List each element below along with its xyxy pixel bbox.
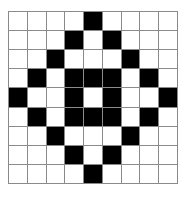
grid-cell-r7-c3 — [65, 146, 84, 165]
grid-cell-r2-c3 — [65, 50, 84, 69]
grid-cell-r4-c8 — [159, 88, 178, 107]
grid-cell-r0-c3 — [65, 12, 84, 31]
grid-cell-r5-c5 — [103, 108, 122, 127]
grid-cell-r3-c5 — [103, 69, 122, 88]
grid-cell-r6-c6 — [122, 127, 141, 146]
grid-cell-r2-c8 — [159, 50, 178, 69]
grid-cell-r4-c2 — [47, 88, 66, 107]
grid-cell-r2-c1 — [28, 50, 47, 69]
grid-cell-r7-c5 — [103, 146, 122, 165]
grid-cell-r1-c3 — [65, 31, 84, 50]
grid-cell-r0-c6 — [122, 12, 141, 31]
grid-cell-r1-c2 — [47, 31, 66, 50]
grid-cell-r4-c7 — [140, 88, 159, 107]
grid-cell-r1-c4 — [84, 31, 103, 50]
grid-cell-r0-c2 — [47, 12, 66, 31]
grid-cell-r4-c0 — [9, 88, 28, 107]
grid-cell-r5-c0 — [9, 108, 28, 127]
grid-cell-r6-c1 — [28, 127, 47, 146]
grid-cell-r1-c1 — [28, 31, 47, 50]
grid-cell-r3-c6 — [122, 69, 141, 88]
grid-cell-r5-c3 — [65, 108, 84, 127]
grid-cell-r3-c3 — [65, 69, 84, 88]
grid-cell-r4-c3 — [65, 88, 84, 107]
grid-cell-r0-c7 — [140, 12, 159, 31]
grid-cell-r7-c4 — [84, 146, 103, 165]
grid-cell-r7-c7 — [140, 146, 159, 165]
grid-cell-r4-c6 — [122, 88, 141, 107]
grid-cell-r7-c8 — [159, 146, 178, 165]
grid-cell-r2-c6 — [122, 50, 141, 69]
grid-cell-r4-c4 — [84, 88, 103, 107]
grid-cell-r4-c1 — [28, 88, 47, 107]
grid-cell-r8-c2 — [47, 165, 66, 184]
grid-cell-r2-c5 — [103, 50, 122, 69]
grid-cell-r1-c8 — [159, 31, 178, 50]
grid-cell-r2-c7 — [140, 50, 159, 69]
grid-cell-r0-c0 — [9, 12, 28, 31]
grid-cell-r6-c4 — [84, 127, 103, 146]
grid-cell-r8-c0 — [9, 165, 28, 184]
grid-cell-r7-c1 — [28, 146, 47, 165]
grid-cell-r6-c8 — [159, 127, 178, 146]
grid-cell-r5-c4 — [84, 108, 103, 127]
grid-cell-r1-c5 — [103, 31, 122, 50]
pixel-grid — [8, 11, 178, 184]
grid-cell-r6-c3 — [65, 127, 84, 146]
grid-cell-r4-c5 — [103, 88, 122, 107]
grid-cell-r3-c4 — [84, 69, 103, 88]
grid-cell-r1-c7 — [140, 31, 159, 50]
grid-cell-r8-c4 — [84, 165, 103, 184]
grid-cell-r2-c2 — [47, 50, 66, 69]
grid-cell-r8-c8 — [159, 165, 178, 184]
grid-cell-r1-c0 — [9, 31, 28, 50]
grid-cell-r0-c8 — [159, 12, 178, 31]
grid-cell-r0-c5 — [103, 12, 122, 31]
grid-cell-r0-c1 — [28, 12, 47, 31]
grid-cell-r7-c6 — [122, 146, 141, 165]
grid-cell-r5-c2 — [47, 108, 66, 127]
grid-cell-r2-c4 — [84, 50, 103, 69]
grid-cell-r5-c8 — [159, 108, 178, 127]
grid-cell-r8-c5 — [103, 165, 122, 184]
grid-cell-r3-c1 — [28, 69, 47, 88]
grid-cell-r5-c1 — [28, 108, 47, 127]
grid-cell-r1-c6 — [122, 31, 141, 50]
grid-cell-r2-c0 — [9, 50, 28, 69]
grid-cell-r7-c0 — [9, 146, 28, 165]
grid-cell-r6-c0 — [9, 127, 28, 146]
grid-cell-r8-c6 — [122, 165, 141, 184]
grid-cell-r3-c7 — [140, 69, 159, 88]
grid-cell-r0-c4 — [84, 12, 103, 31]
grid-cell-r5-c6 — [122, 108, 141, 127]
grid-cell-r8-c3 — [65, 165, 84, 184]
grid-cell-r6-c2 — [47, 127, 66, 146]
grid-cell-r6-c7 — [140, 127, 159, 146]
grid-cell-r3-c2 — [47, 69, 66, 88]
grid-cell-r8-c7 — [140, 165, 159, 184]
grid-cell-r7-c2 — [47, 146, 66, 165]
grid-cell-r8-c1 — [28, 165, 47, 184]
grid-cell-r3-c0 — [9, 69, 28, 88]
grid-cell-r3-c8 — [159, 69, 178, 88]
grid-cell-r5-c7 — [140, 108, 159, 127]
grid-cell-r6-c5 — [103, 127, 122, 146]
